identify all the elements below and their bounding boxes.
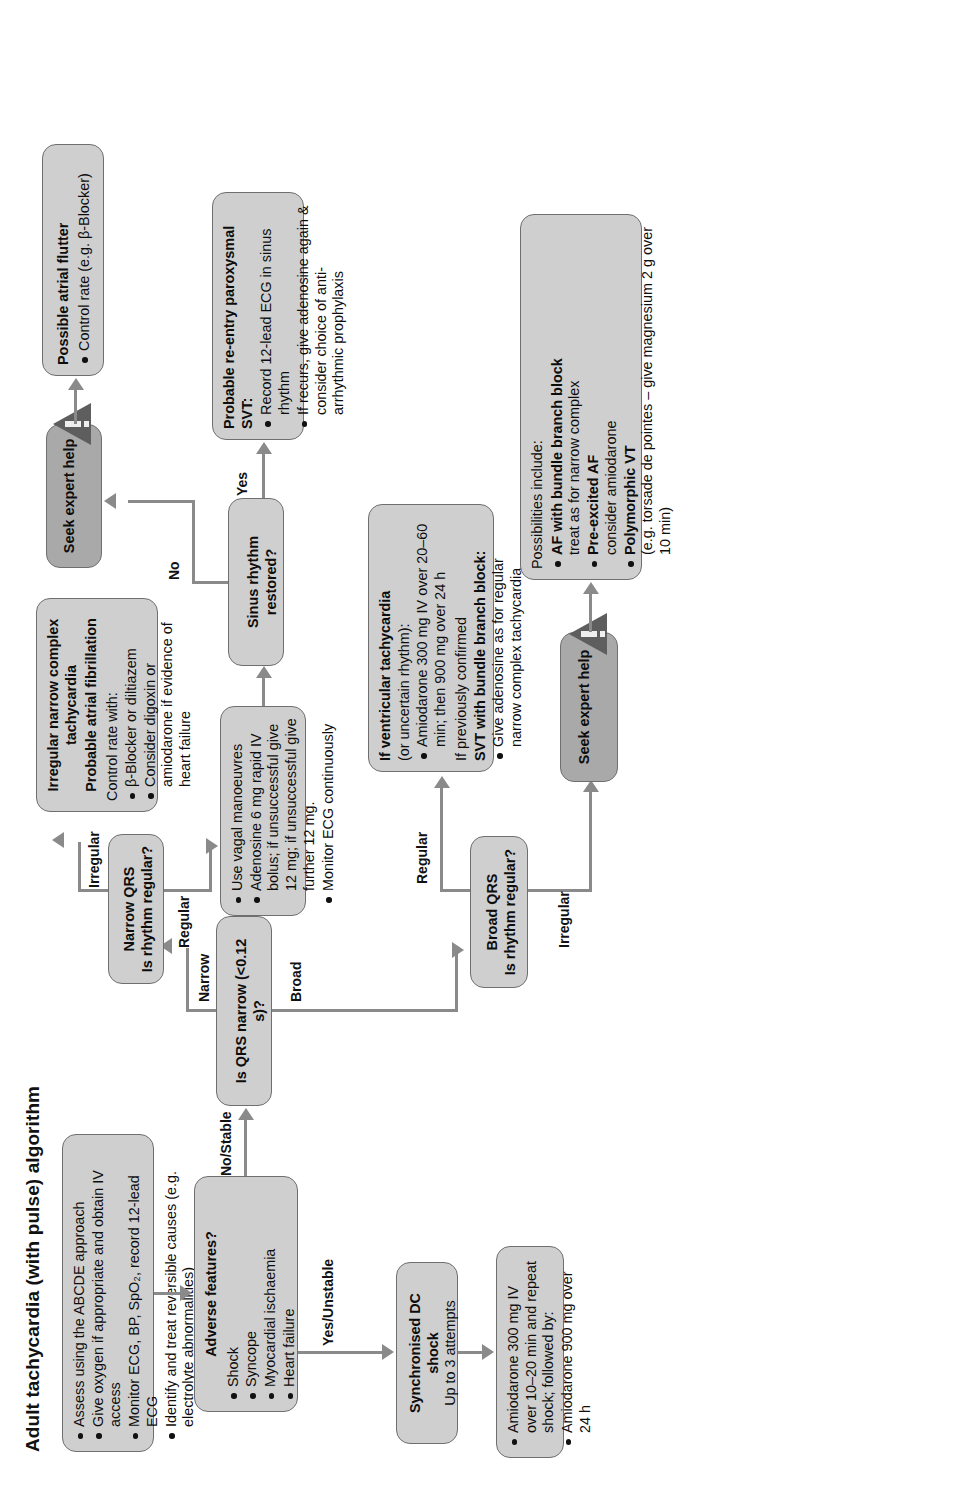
connector (128, 500, 194, 503)
node-heading: Sinus rhythm restored? (245, 509, 280, 655)
list-item: Pre-excited AF consider amiodarone (585, 225, 620, 569)
connector (192, 500, 195, 584)
possibilities-lead: Possibilities include: (529, 225, 547, 569)
connector (272, 1009, 458, 1012)
node-lead: Control rate with: (104, 609, 122, 801)
node-svt-reentry[interactable]: Probable re-entry paroxysmal SVT: Record… (212, 192, 304, 440)
node-atrial-flutter[interactable]: Possible atrial flutter Control rate (e.… (42, 144, 104, 376)
connector (262, 676, 265, 706)
node-heading: Probable re-entry paroxysmal SVT: (221, 203, 256, 429)
node-seek-expert-help-top[interactable]: Seek expert help (46, 424, 102, 568)
connector (192, 581, 228, 584)
seek-expert-help-label: Seek expert help (576, 650, 594, 764)
node-seek-expert-help-bottom[interactable]: Seek expert help (560, 632, 618, 782)
connector (589, 788, 592, 892)
connector-arrow (583, 582, 599, 594)
connector (440, 889, 470, 892)
list-item: Give oxygen if appropriate and obtain IV… (90, 1145, 125, 1441)
list-item: Assess using the ABCDE approach (71, 1145, 89, 1441)
connector (298, 1351, 384, 1354)
list-item: β-Blocker or diltiazem (123, 609, 141, 801)
node-heading: Irregular narrow complex tachycardia (45, 609, 80, 801)
connector-arrow (180, 1285, 192, 1301)
node-adverse-features[interactable]: Adverse features? Shock Syncope Myocardi… (194, 1176, 298, 1412)
connector (440, 784, 443, 892)
node-amiodarone[interactable]: Amiodarone 300 mg IV over 10–20 min and … (496, 1246, 564, 1458)
list-item: Amiodarone 300 mg IV over 10–20 min and … (505, 1257, 558, 1447)
connector (186, 1009, 216, 1012)
connector-arrow (104, 493, 116, 509)
list-item: Use vagal manoeuvres (229, 717, 247, 905)
list-item: AF with bundle branch block treat as for… (549, 225, 584, 569)
list-item: Amiodarone 300 mg IV over 20–60 min; the… (414, 515, 449, 761)
connector (186, 948, 189, 1012)
connector (78, 889, 108, 892)
vt-lead-bold: If ventricular tachycardia (377, 591, 393, 761)
node-possibilities[interactable]: Possibilities include: AF with bundle br… (520, 214, 642, 580)
edge-label-regular-broad: Regular (414, 832, 430, 884)
edge-label-narrow: Narrow (196, 954, 212, 1002)
list-item: Control rate (e.g. β-Blocker) (76, 155, 94, 365)
edge-label-no-stable: No/Stable (218, 1111, 234, 1176)
possibility-title: AF with bundle branch block (549, 358, 565, 555)
connector-arrow (68, 378, 84, 390)
edge-label-regular-narrow: Regular (176, 896, 192, 948)
node-heading: Possible atrial flutter (55, 155, 73, 365)
connector (589, 592, 592, 632)
edge-label-yes: Yes (234, 472, 250, 496)
node-heading-line2: Is rhythm regular? (139, 845, 157, 973)
list-item: Heart failure (281, 1187, 299, 1401)
list-item: Amiodarone 900 mg over 24 h (559, 1257, 594, 1447)
node-heading-line2: Is rhythm regular? (502, 847, 520, 977)
connector-arrow (238, 1108, 254, 1120)
connector (244, 1118, 247, 1176)
list-item: Myocardial ischaemia (262, 1187, 280, 1401)
node-heading: Synchronised DC shock (407, 1273, 442, 1433)
possibility-detail: (e.g. torsade de pointes – give magnesiu… (639, 227, 673, 555)
edge-label-no: No (166, 561, 182, 580)
list-item: Syncope (243, 1187, 261, 1401)
connector-arrow (256, 442, 272, 454)
node-heading: Is QRS narrow (<0.12 s)? (233, 927, 268, 1095)
connector (78, 842, 81, 892)
connector-arrow (482, 1344, 494, 1360)
connector (154, 1292, 182, 1295)
node-qrs-narrow[interactable]: Is QRS narrow (<0.12 s)? (216, 916, 272, 1106)
node-narrow-qrs-regular[interactable]: Narrow QRS Is rhythm regular? (108, 834, 164, 984)
node-broad-qrs-regular[interactable]: Broad QRS Is rhythm regular? (470, 836, 528, 988)
node-sinus-restored[interactable]: Sinus rhythm restored? (228, 498, 284, 666)
connector (164, 889, 212, 892)
edge-label-broad: Broad (288, 962, 304, 1002)
list-item: Shock (225, 1187, 243, 1401)
list-item: Monitor ECG continuously (320, 717, 338, 905)
connector (209, 848, 212, 892)
edge-label-yes-unstable: Yes/Unstable (320, 1259, 336, 1346)
possibility-title: Pre-excited AF (585, 455, 601, 555)
connector (455, 952, 458, 1012)
node-initial-assessment[interactable]: Assess using the ABCDE approach Give oxy… (62, 1134, 154, 1452)
possibility-detail: consider amiodarone (603, 421, 619, 555)
node-ventricular-tachycardia[interactable]: If ventricular tachycardia (or uncertain… (368, 504, 494, 772)
list-item: Record 12-lead ECG in sinus rhythm (258, 203, 293, 429)
node-heading-line1: Narrow QRS (121, 845, 139, 973)
node-vagal-adenosine[interactable]: Use vagal manoeuvres Adenosine 6 mg rapi… (220, 706, 306, 916)
edge-label-irregular-narrow: Irregular (86, 831, 102, 888)
vt-mid-bold: SVT with bundle branch block: (472, 515, 490, 761)
connector-arrow (434, 776, 450, 788)
flowchart-canvas: Adult tachycardia (with pulse) algorithm… (0, 0, 976, 1488)
connector-arrow (382, 1344, 394, 1360)
connector-arrow (206, 838, 218, 854)
node-heading: Adverse features? (203, 1187, 221, 1401)
vt-lead-rest: (or uncertain rhythm): (396, 515, 414, 761)
connector (262, 452, 265, 498)
connector-arrow (52, 832, 64, 848)
possibility-detail: treat as for narrow complex (566, 381, 582, 555)
vt-mid: If previously confirmed (453, 515, 471, 761)
node-heading-line1: Broad QRS (484, 847, 502, 977)
list-item: Polymorphic VT (e.g. torsade de pointes … (622, 225, 675, 569)
node-dc-shock[interactable]: Synchronised DC shock Up to 3 attempts (396, 1262, 458, 1444)
list-item: Adenosine 6 mg rapid IV bolus; if unsucc… (248, 717, 319, 905)
list-item: If recurs, give adenosine again & consid… (295, 203, 348, 429)
list-item: Consider digoxin or amiodarone if eviden… (142, 609, 195, 801)
node-irregular-narrow-complex[interactable]: Irregular narrow complex tachycardia Pro… (36, 598, 158, 812)
